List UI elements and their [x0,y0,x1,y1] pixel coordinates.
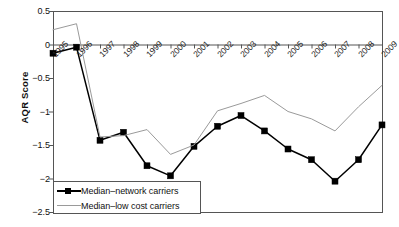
series-low-cost-carriers [53,24,382,155]
data-point-marker [238,113,244,119]
data-point-marker [50,50,56,56]
series-network-carriers [50,44,385,184]
legend-swatch-lowcost-icon [57,200,81,211]
data-point-marker [285,146,291,152]
legend-swatch-network-icon [57,185,81,196]
data-point-marker [97,137,103,143]
data-point-marker [332,178,338,184]
data-point-marker [144,163,150,169]
data-point-marker [356,157,362,163]
legend-item-lowcost[interactable]: Median–low cost carriers [54,198,200,213]
data-point-marker [168,173,174,179]
data-point-marker [215,123,221,129]
legend-item-network[interactable]: Median–network carriers [54,183,200,198]
data-point-marker [74,44,80,50]
data-point-marker [121,129,127,135]
data-point-marker [309,157,315,163]
chart-legend: Median–network carriers Median–low cost … [53,181,201,214]
data-point-marker [379,122,385,128]
data-point-marker [262,128,268,134]
legend-label-network: Median–network carriers [81,186,178,196]
legend-label-lowcost: Median–low cost carriers [81,201,179,211]
